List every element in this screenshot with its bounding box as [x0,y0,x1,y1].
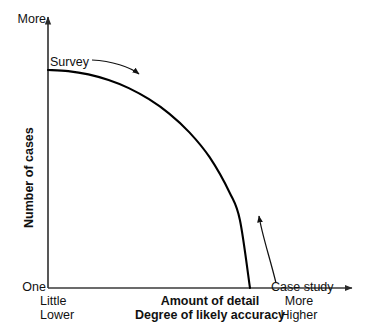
survey-arrow [92,60,139,74]
x-axis-max-labels: More Higher [240,294,358,323]
x-axis-max-label-higher: Higher [240,308,358,322]
x-axis-min-label-lower: Lower [40,308,74,322]
y-axis-min-label: One [2,280,46,294]
y-axis-title: Number of cases [22,127,36,228]
annotation-survey-label: Survey [50,55,89,69]
x-axis-max-label-more: More [240,294,358,308]
y-axis-max-label: More [2,12,46,26]
chart-figure: More One Number of cases Survey Case stu… [0,0,368,335]
case-study-arrow [259,216,276,283]
annotation-case-study-label: Case study [271,280,334,294]
x-axis-min-label-little: Little [40,294,74,308]
tradeoff-curve [48,70,250,288]
x-axis-min-labels: Little Lower [40,294,74,323]
